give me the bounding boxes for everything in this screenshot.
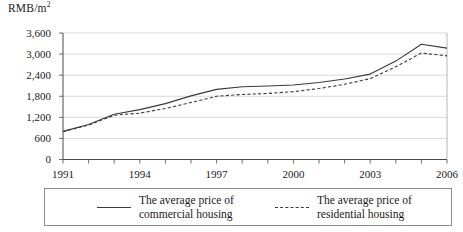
legend-label-residential: The average price of residential housing: [317, 193, 412, 221]
price-trend-chart: RMB/m2 06001,2001,8002,4003,0003,600 199…: [0, 0, 463, 232]
legend-entry-commercial: The average price of commercial housing: [97, 193, 234, 223]
legend-label-commercial: The average price of commercial housing: [139, 193, 234, 221]
legend-swatch-dashed-line-icon: [275, 200, 309, 216]
gridlines: [63, 33, 447, 138]
legend-label-commercial-line1: The average price of: [139, 194, 234, 206]
legend-entry-residential: The average price of residential housing: [275, 193, 412, 223]
series-line-commercial: [63, 44, 447, 131]
legend-label-commercial-line2: commercial housing: [139, 208, 233, 220]
legend-label-residential-line1: The average price of: [317, 194, 412, 206]
data-series: [63, 44, 447, 132]
legend-swatch-solid-line-icon: [97, 200, 131, 216]
legend: The average price of commercial housing …: [44, 188, 452, 226]
legend-label-residential-line2: residential housing: [317, 208, 404, 220]
x-axis-ticks: [59, 33, 447, 164]
